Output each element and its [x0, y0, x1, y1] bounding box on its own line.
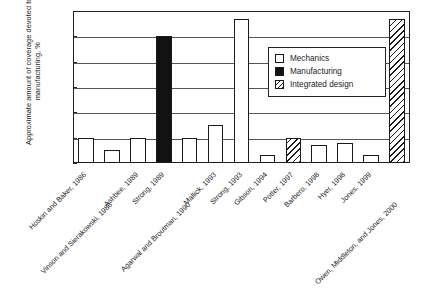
x-axis-tick-label: Barbero, 1998 [174, 171, 321, 302]
bar [260, 155, 276, 163]
bar [234, 19, 250, 163]
legend-label-manufacturing: Manufacturing [290, 67, 342, 76]
bar [156, 36, 172, 163]
legend-swatch-mechanics-icon [275, 54, 284, 63]
bar [78, 138, 94, 163]
legend-item-manufacturing: Manufacturing [275, 65, 379, 78]
chart-figure: Approximate amount of coverage devoted t… [0, 0, 429, 302]
x-axis-tick-label: Strong, 1989 [19, 171, 166, 302]
y-axis-title: Approximate amount of coverage devoted t… [24, 0, 42, 151]
legend-item-mechanics: Mechanics [275, 52, 379, 65]
x-axis-tick-label: Agarwal and Broutman, 1990 [45, 201, 192, 302]
bar [311, 145, 327, 163]
x-axis-tick-label: Vinson and Sierakowski, 1986 [0, 201, 114, 302]
chart-legend: Mechanics Manufacturing Integrated desig… [268, 47, 386, 97]
x-axis-tick-label: Gibson, 1994 [122, 171, 269, 302]
x-axis-tick-label: Jones, 1999 [226, 171, 373, 302]
x-axis-tick-label: Owen, Middleton, and Jones, 2000 [252, 201, 399, 302]
bar [182, 138, 198, 163]
bar [286, 138, 302, 163]
legend-item-integrated-design: Integrated design [275, 78, 379, 91]
legend-label-mechanics: Mechanics [290, 54, 329, 63]
legend-swatch-integrated-design-icon [275, 80, 284, 89]
x-axis-tick-label: Mallick, 1993 [71, 171, 218, 302]
x-axis-tick-label: Hoskin and Baker, 1986 [0, 171, 88, 302]
bar [389, 19, 405, 163]
bar [363, 155, 379, 163]
bar [208, 125, 224, 163]
x-axis-tick-label: Ashbee, 1989 [0, 171, 140, 302]
legend-swatch-manufacturing-icon [275, 67, 284, 76]
x-axis-tick-label: Potter, 1997 [148, 171, 295, 302]
x-axis-tick-label: Strong, 1993 [97, 171, 244, 302]
bar [337, 143, 353, 163]
x-axis-tick-label: Hyer, 1998 [200, 171, 347, 302]
legend-label-integrated-design: Integrated design [290, 80, 353, 89]
y-axis-tick-mark [73, 163, 77, 164]
bar [104, 150, 120, 163]
bar [130, 138, 146, 163]
